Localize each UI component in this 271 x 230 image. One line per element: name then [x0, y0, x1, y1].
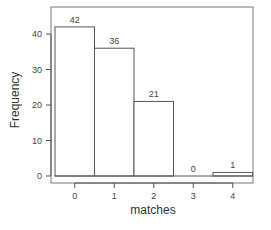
x-axis-title: matches: [130, 203, 175, 217]
bar-value-label: 1: [230, 160, 235, 170]
histogram-chart: 42362101 010203040 01234 matches Frequen…: [0, 0, 271, 230]
y-tick-label: 40: [32, 29, 42, 39]
x-tick-label: 2: [151, 191, 156, 201]
y-tick-label: 30: [32, 65, 42, 75]
y-tick-label: 20: [32, 100, 42, 110]
bar-4: [213, 172, 253, 176]
x-tick-label: 4: [230, 191, 235, 201]
y-tick-label: 0: [37, 171, 42, 181]
bar-value-label: 21: [149, 89, 159, 99]
bar-0: [55, 27, 95, 176]
bar-1: [95, 48, 135, 176]
x-axis: 01234: [72, 183, 235, 201]
x-tick-label: 1: [112, 191, 117, 201]
x-tick-label: 3: [191, 191, 196, 201]
bar-value-label: 0: [191, 164, 196, 174]
y-axis-title: Frequency: [8, 72, 22, 129]
bar-2: [134, 101, 174, 176]
x-tick-label: 0: [72, 191, 77, 201]
bar-value-label: 36: [109, 36, 119, 46]
bar-value-label: 42: [70, 15, 80, 25]
y-axis: 010203040: [32, 29, 51, 181]
y-tick-label: 10: [32, 136, 42, 146]
bars-group: [55, 27, 253, 176]
